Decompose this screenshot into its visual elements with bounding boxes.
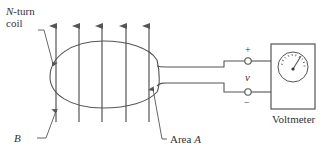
faraday-diagram: N-turn coil B Area A + v − Voltmeter	[0, 0, 324, 154]
field-label: B	[14, 132, 21, 144]
coil-leader	[38, 30, 53, 64]
coil-turns-suffix: -turn	[13, 5, 34, 17]
terminal-positive	[245, 58, 251, 64]
area-leader	[153, 89, 167, 139]
coil-word: coil	[6, 17, 23, 29]
coil-label: N-turn coil	[6, 5, 35, 29]
terminal-negative	[245, 89, 251, 95]
plus-sign: +	[245, 44, 251, 56]
area-prefix: Area	[170, 133, 194, 145]
voltage-label: v	[245, 71, 250, 83]
voltmeter-label: Voltmeter	[272, 113, 315, 125]
area-var: A	[194, 133, 201, 145]
field-leader	[37, 111, 56, 138]
dial-pivot	[291, 67, 294, 70]
minus-sign: −	[244, 97, 250, 109]
area-label: Area A	[170, 133, 201, 145]
coil-loop	[50, 41, 159, 108]
lead-upper	[157, 61, 245, 67]
diagram-drawing	[0, 0, 324, 154]
voltmeter-dial	[278, 52, 308, 82]
lead-lower	[157, 83, 245, 92]
